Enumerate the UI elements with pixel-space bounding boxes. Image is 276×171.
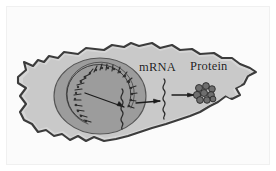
protein-subunit — [210, 96, 216, 102]
protein-subunit — [204, 97, 211, 104]
protein-cluster — [193, 83, 216, 104]
protein-label: Protein — [190, 59, 228, 74]
protein-subunit — [197, 97, 204, 104]
figure-canvas: mRNA Protein — [0, 0, 276, 171]
protein-subunit — [201, 90, 208, 97]
mrna-label: mRNA — [139, 60, 176, 75]
cell-diagram — [0, 0, 276, 171]
